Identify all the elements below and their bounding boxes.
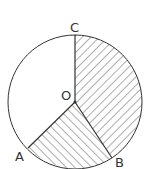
label-a: A — [15, 149, 24, 164]
label-o: O — [61, 88, 71, 103]
label-c: C — [70, 20, 79, 35]
center-point — [74, 101, 77, 104]
circle-diagram: C O A B — [0, 0, 152, 169]
label-b: B — [115, 155, 124, 169]
